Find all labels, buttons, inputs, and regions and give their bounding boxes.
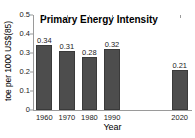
y-tick-label: 0.3	[20, 49, 33, 57]
bar-value-label: 0.21	[172, 61, 187, 70]
bar-1990[interactable]: 0.32	[104, 49, 120, 110]
x-axis-line	[33, 110, 192, 111]
x-tick-mark	[44, 15, 45, 18]
bar-value-label: 0.31	[60, 42, 75, 51]
x-tick-mark	[67, 15, 68, 18]
x-tick-label-2020: 2020	[171, 113, 188, 122]
y-tick-label: 0.5	[20, 11, 33, 19]
bar-value-label: 0.32	[105, 40, 120, 49]
bar-1980[interactable]: 0.28	[82, 57, 98, 110]
x-tick-mark	[89, 15, 90, 18]
bar-value-label: 0.28	[82, 48, 97, 57]
x-tick-label-1980: 1980	[81, 113, 98, 122]
x-tick-label-1990: 1990	[104, 113, 121, 122]
x-axis-label: Year	[33, 122, 192, 133]
y-tick-label: 0.2	[20, 68, 33, 76]
x-tick-label-1970: 1970	[59, 113, 76, 122]
x-tick-mark	[180, 15, 181, 18]
x-tick-label-1960: 1960	[36, 113, 53, 122]
x-tick-mark	[112, 15, 113, 18]
bar-1970[interactable]: 0.31	[59, 51, 75, 110]
bar-1960[interactable]: 0.34	[36, 45, 52, 110]
bar-value-label: 0.34	[37, 36, 52, 45]
bar-2020[interactable]: 0.21	[172, 70, 188, 110]
y-tick-label: 0.1	[20, 87, 33, 95]
chart-container: toe per 1000 US$(85) Primary Energy Inte…	[0, 0, 195, 138]
y-axis-label: toe per 1000 US$(85)	[2, 6, 14, 116]
y-tick-label: 0	[26, 106, 33, 114]
y-tick-label: 0.4	[20, 30, 33, 38]
plot-area: 00.10.20.30.40.50.3419600.3119700.281980…	[33, 15, 191, 110]
